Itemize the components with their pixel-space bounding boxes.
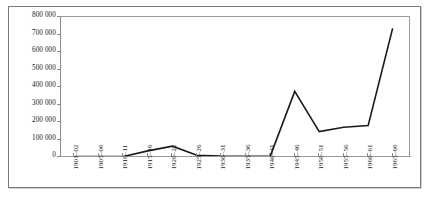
data-line (74, 28, 392, 156)
x-axis-tick: 1950–51 (312, 157, 324, 200)
x-axis-tick-label: 1910–11 (122, 145, 129, 170)
y-axis-tick-label: 500 000 (4, 65, 56, 72)
x-axis-tick-label: 1965–66 (392, 144, 399, 169)
x-axis-tick-label: 1950–51 (318, 144, 325, 169)
x-axis-tick: 1915–16 (141, 157, 153, 200)
x-axis-tick-label: 1930–31 (220, 144, 227, 169)
y-axis: 0100 000200 000300 000400 000500 000600 … (0, 0, 56, 200)
x-axis: 1901–021905–061910–111915–161920–211925–… (60, 157, 410, 200)
x-axis-tick-label: 1905–06 (98, 144, 105, 169)
x-axis-tick: 1930–31 (214, 157, 226, 200)
x-axis-tick-label: 1920–21 (171, 144, 178, 169)
y-axis-tick-label: 700 000 (4, 30, 56, 37)
x-axis-tick-label: 1915–16 (147, 144, 154, 169)
x-axis-tick: 1955–56 (337, 157, 349, 200)
x-axis-tick: 1935–36 (239, 157, 251, 200)
y-axis-tick-label: 400 000 (4, 82, 56, 89)
x-axis-tick-label: 1940–41 (269, 144, 276, 169)
x-axis-tick-label: 1925–26 (196, 144, 203, 169)
y-axis-tick-label: 0 (4, 152, 56, 159)
x-axis-tick: 1965–66 (386, 157, 398, 200)
x-axis-tick: 1945–46 (288, 157, 300, 200)
chart-figure: 0100 000200 000300 000400 000500 000600 … (0, 0, 431, 200)
y-axis-tick-label: 200 000 (4, 117, 56, 124)
x-axis-tick-label: 1935–36 (245, 144, 252, 169)
y-axis-tick-label: 800 000 (4, 12, 56, 19)
x-axis-tick-label: 1960–61 (367, 144, 374, 169)
line-series-svg (61, 17, 411, 157)
y-axis-tick-label: 100 000 (4, 135, 56, 142)
x-axis-tick-label: 1945–46 (294, 144, 301, 169)
x-axis-tick: 1925–26 (190, 157, 202, 200)
plot-area (60, 16, 410, 156)
x-axis-tick: 1905–06 (92, 157, 104, 200)
x-axis-tick: 1960–61 (361, 157, 373, 200)
x-axis-tick-label: 1955–56 (343, 144, 350, 169)
x-axis-tick: 1940–41 (263, 157, 275, 200)
y-axis-tick-label: 600 000 (4, 47, 56, 54)
y-axis-tick-label: 300 000 (4, 100, 56, 107)
x-axis-tick: 1920–21 (165, 157, 177, 200)
x-axis-tick-label: 1901–02 (73, 144, 80, 169)
x-axis-tick: 1901–02 (67, 157, 79, 200)
x-axis-tick: 1910–11 (116, 157, 128, 200)
